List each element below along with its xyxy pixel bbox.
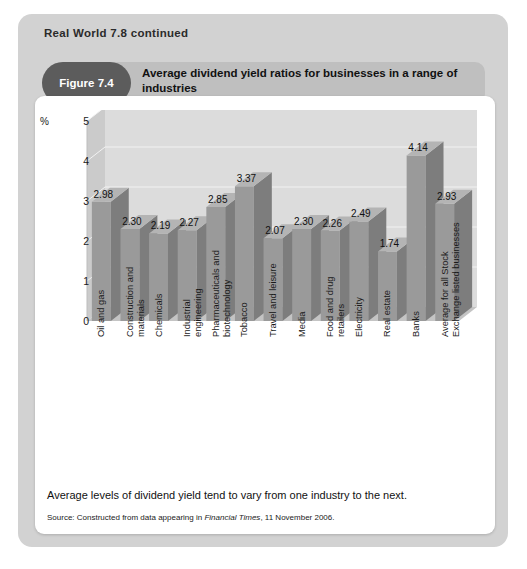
y-axis-tick-label: 0: [55, 315, 89, 327]
x-axis-category-label: Pharmaceuticals andbiotechnology: [211, 250, 233, 337]
category-label-line: Banks: [411, 311, 422, 337]
x-axis-category-label: Oil and gas: [96, 290, 107, 337]
real-world-title: Real World 7.8 continued: [44, 27, 188, 39]
bar-value-label: 2.98: [94, 189, 113, 200]
category-label-line: Real estate: [382, 290, 393, 337]
bar-value-label: 2.93: [437, 191, 456, 202]
category-label-line: Media: [297, 312, 308, 337]
bar-value-label: 2.30: [122, 216, 141, 227]
source-prefix: Source: Constructed from data appearing …: [47, 513, 204, 522]
x-axis-category-label: Average for all StockExchange listed bus…: [440, 222, 462, 337]
bar-value-label: 2.27: [179, 217, 198, 228]
figure-screenshot: Real World 7.8 continued Figure 7.4 Aver…: [0, 0, 527, 569]
x-axis-category-label: Industrialengineering: [182, 288, 204, 337]
x-axis-category-label: Travel and leisure: [268, 263, 279, 337]
category-label-line: Tobacco: [239, 302, 250, 337]
source-suffix: , 11 November 2006.: [260, 513, 334, 522]
bar-value-label: 4.14: [408, 142, 427, 153]
category-label-line: engineering: [193, 288, 204, 337]
y-axis-tick-label: 4: [55, 155, 89, 167]
bar-value-label: 2.49: [351, 208, 370, 219]
category-label-line: biotechnology: [222, 250, 233, 337]
figure-source: Source: Constructed from data appearing …: [47, 513, 335, 522]
bar-value-label: 2.26: [322, 218, 341, 229]
category-label-line: Pharmaceuticals and: [211, 250, 222, 337]
category-label-line: Average for all Stock: [440, 222, 451, 337]
x-axis-category-label: Media: [297, 312, 308, 337]
x-axis-category-label: Food and drugretailers: [325, 277, 347, 337]
source-publication: Financial Times: [204, 513, 260, 522]
x-axis-category-label: Construction andmaterials: [125, 267, 147, 337]
bar-value-label: 2.07: [265, 225, 284, 236]
category-label-line: Travel and leisure: [268, 263, 279, 337]
category-label-line: Food and drug: [325, 277, 336, 337]
x-axis-category-label: Real estate: [382, 290, 393, 337]
category-label-line: Oil and gas: [96, 290, 107, 337]
category-label-line: Construction and: [125, 267, 136, 337]
bar-value-label: 1.74: [380, 238, 399, 249]
figure-title: Average dividend yield ratios for busine…: [142, 66, 472, 95]
y-axis-tick-label: 1: [55, 275, 89, 287]
x-axis-category-label: Electricity: [354, 297, 365, 337]
figure-caption: Average levels of dividend yield tend to…: [47, 489, 407, 501]
x-axis-category-label: Tobacco: [239, 302, 250, 337]
category-label-line: materials: [136, 267, 147, 337]
bar-chart: 012345% 2.982.302.192.272.853.372.072.30…: [35, 110, 495, 470]
category-label-line: Industrial: [182, 288, 193, 337]
category-label-line: Electricity: [354, 297, 365, 337]
y-axis-tick-label: 5: [55, 115, 89, 127]
y-axis-tick-labels: 012345%: [35, 110, 89, 470]
y-axis-unit-label: %: [40, 116, 49, 127]
bar-value-label: 2.30: [294, 216, 313, 227]
bar-value-label: 3.37: [237, 173, 256, 184]
y-axis-tick-label: 3: [55, 195, 89, 207]
category-label-line: Exchange listed businesses: [451, 222, 462, 337]
x-axis-category-label: Chemicals: [154, 294, 165, 337]
category-label-line: retailers: [336, 277, 347, 337]
bar-value-label: 2.19: [151, 220, 170, 231]
category-label-line: Chemicals: [154, 294, 165, 337]
bar-value-label: 2.85: [208, 194, 227, 205]
x-axis-category-label: Banks: [411, 311, 422, 337]
y-axis-tick-label: 2: [55, 235, 89, 247]
